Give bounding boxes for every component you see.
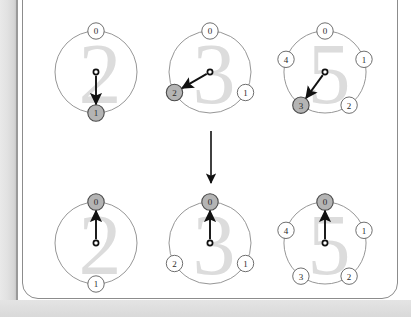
ring-node-label: 4: [284, 226, 289, 236]
ring-mod-5-before: 501234: [278, 23, 372, 122]
ring-node: 3: [293, 97, 309, 113]
ring-node: 2: [166, 255, 182, 271]
ring-node-label: 3: [299, 272, 304, 282]
ring-mod-5-after: 501234: [278, 194, 372, 293]
ring-node: 2: [166, 84, 182, 100]
ring-node: 4: [278, 222, 294, 238]
figure-root: 20130125012342013012501234: [0, 0, 411, 317]
ring-node-label: 2: [347, 272, 352, 282]
ring-pointer-hub: [322, 240, 327, 245]
ring-node: 1: [88, 276, 104, 292]
ring-watermark-numeral: 3: [193, 26, 236, 122]
ring-node: 1: [356, 222, 372, 238]
ring-pointer-hub: [207, 69, 212, 74]
ring-node: 0: [202, 194, 218, 210]
ring-pointer-hub: [322, 69, 327, 74]
ring-node-label: 0: [94, 26, 99, 36]
ring-node-label: 0: [208, 26, 213, 36]
ring-node-label: 1: [362, 55, 367, 65]
ring-diagram-canvas: 20130125012342013012501234: [0, 0, 411, 317]
ring-pointer-hub: [93, 240, 98, 245]
ring-node: 0: [317, 194, 333, 210]
ring-pointer-hub: [93, 69, 98, 74]
ring-node: 1: [237, 84, 253, 100]
ring-node: 4: [278, 51, 294, 67]
ring-node: 2: [341, 97, 357, 113]
ring-node: 1: [237, 255, 253, 271]
ring-node-label: 0: [323, 197, 328, 207]
ring-node-label: 1: [243, 259, 248, 269]
ring-node: 2: [341, 268, 357, 284]
ring-node-label: 1: [362, 226, 367, 236]
ring-node-label: 1: [243, 88, 248, 98]
page-bottom-shadow: [0, 300, 411, 317]
ring-node-label: 2: [172, 88, 177, 98]
ring-node-label: 0: [323, 26, 328, 36]
ring-node-label: 0: [208, 197, 213, 207]
ring-node-label: 1: [94, 279, 99, 289]
ring-node: 0: [88, 194, 104, 210]
ring-pointer-hub: [207, 240, 212, 245]
ring-node: 0: [88, 23, 104, 39]
ring-mod-3-after: 3012: [166, 194, 253, 293]
ring-node: 0: [202, 23, 218, 39]
ring-mod-2-before: 201: [55, 23, 137, 122]
ring-node-label: 2: [347, 101, 352, 111]
ring-node-label: 1: [94, 108, 99, 118]
ring-node-label: 2: [172, 259, 177, 269]
ring-node: 3: [293, 268, 309, 284]
ring-mod-3-before: 3012: [166, 23, 253, 122]
ring-node: 1: [356, 51, 372, 67]
ring-node-label: 3: [299, 101, 304, 111]
ring-mod-2-after: 201: [55, 194, 137, 293]
ring-node-label: 0: [94, 197, 99, 207]
ring-node-label: 4: [284, 55, 289, 65]
ring-node: 1: [88, 105, 104, 121]
ring-watermark-numeral: 3: [193, 197, 236, 293]
ring-node: 0: [317, 23, 333, 39]
